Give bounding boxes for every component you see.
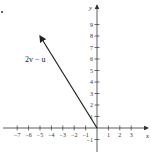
svg-text:6: 6 <box>90 56 93 62</box>
bullet-dot <box>1 11 3 13</box>
x-axis-label: x <box>145 132 150 140</box>
y-ticks: −1123456789 <box>87 22 100 143</box>
svg-text:−2: −2 <box>71 132 77 138</box>
svg-text:7: 7 <box>90 45 93 51</box>
svg-text:2: 2 <box>118 132 121 138</box>
x-ticks: −7−6−5−4−3−2−1123 <box>14 126 133 139</box>
svg-text:8: 8 <box>90 33 93 39</box>
svg-text:−3: −3 <box>60 132 66 138</box>
svg-text:−7: −7 <box>14 132 20 138</box>
svg-text:5: 5 <box>90 68 93 74</box>
vector-diagram: −7−6−5−4−3−2−1123 −1123456789 x y 2v − u <box>0 0 151 157</box>
svg-text:1: 1 <box>107 132 110 138</box>
svg-text:3: 3 <box>90 91 93 97</box>
vector-label: 2v − u <box>25 55 46 64</box>
svg-text:−1: −1 <box>87 137 93 143</box>
svg-text:4: 4 <box>90 79 93 85</box>
vector-arrow <box>40 36 97 128</box>
svg-text:−5: −5 <box>37 132 43 138</box>
y-axis-label: y <box>88 4 93 12</box>
svg-text:2: 2 <box>90 102 93 108</box>
svg-text:−6: −6 <box>25 132 31 138</box>
svg-text:9: 9 <box>90 22 93 28</box>
svg-text:−4: −4 <box>48 132 54 138</box>
svg-text:3: 3 <box>130 132 133 138</box>
